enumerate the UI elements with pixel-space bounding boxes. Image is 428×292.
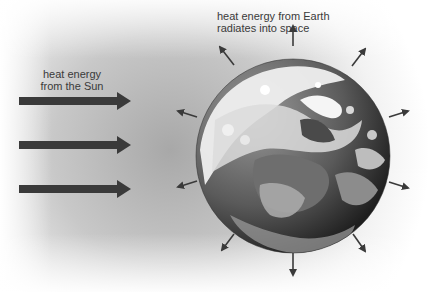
sun-label-line1: heat energy [40, 68, 104, 80]
diagram-graphic [0, 0, 428, 292]
earth-globe [196, 59, 390, 253]
sun-label-line2: from the Sun [40, 80, 104, 92]
diagram-canvas: heat energy from the Sun heat energy fro… [0, 0, 428, 292]
earth-label-line2: radiates into space [217, 22, 330, 34]
earth-heat-label: heat energy from Earth radiates into spa… [217, 10, 330, 34]
sun-heat-label: heat energy from the Sun [40, 68, 104, 92]
earth-label-line1: heat energy from Earth [217, 10, 330, 22]
